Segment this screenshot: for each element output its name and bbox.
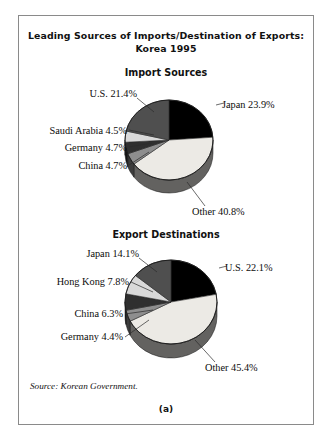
label-export-japan: Japan 14.1% [19,248,139,259]
export-destinations-chart: Japan 14.1% Hong Kong 7.8% China 6.3% Ge… [19,240,313,392]
label-import-japan: Japan 23.9% [222,99,275,110]
figure-title: Leading Sources of Imports/Destination o… [19,29,313,55]
source-note: Source: Korean Government. [30,381,138,391]
label-import-germany: Germany 4.7% [19,142,127,153]
label-import-us: U.S. 21.4% [19,88,137,99]
figure-title-line-2: Korea 1995 [19,42,313,55]
export-destinations-heading: Export Destinations [19,229,313,240]
label-export-hong-kong: Hong Kong 7.8% [19,276,129,287]
import-sources-chart: U.S. 21.4% Saudi Arabia 4.5% Germany 4.7… [19,78,313,226]
label-import-saudi-arabia: Saudi Arabia 4.5% [19,125,127,136]
figure-panel: Leading Sources of Imports/Destination o… [18,15,314,425]
figure-title-line-1: Leading Sources of Imports/Destination o… [19,29,313,42]
label-export-china: China 6.3% [19,308,123,319]
label-export-germany: Germany 4.4% [19,331,123,342]
label-export-us: U.S. 22.1% [225,262,272,273]
label-import-china: China 4.7% [19,160,127,171]
label-export-other: Other 45.4% [205,362,258,373]
figure-caption: (a) [19,404,313,414]
label-import-other: Other 40.8% [192,206,245,217]
import-sources-heading: Import Sources [19,67,313,78]
